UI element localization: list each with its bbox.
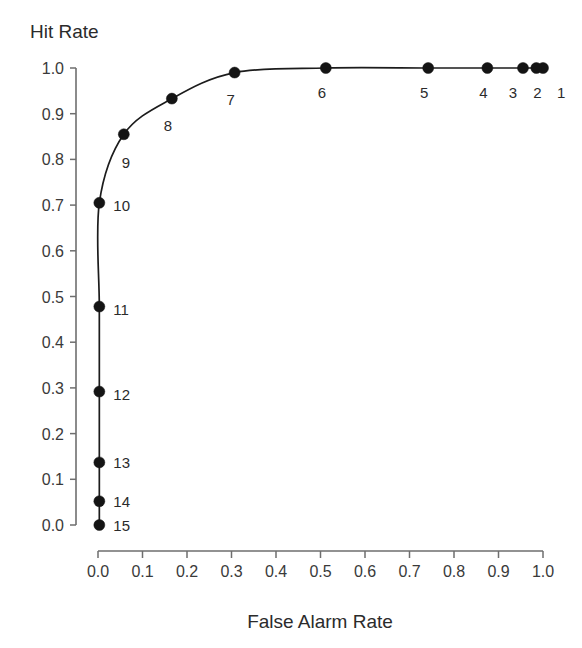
roc-point-8 [166,93,177,104]
roc-point-7 [229,67,240,78]
roc-point-label-13: 13 [113,454,130,471]
chart-canvas: Hit Rate 0.00.10.20.30.40.50.60.70.80.91… [0,0,582,648]
y-tick-label: 0.0 [42,517,64,534]
roc-point-label-10: 10 [113,197,130,214]
x-tick-label: 0.4 [265,563,287,580]
roc-point-label-12: 12 [113,386,130,403]
roc-point-label-3: 3 [509,84,517,101]
roc-point-6 [320,63,331,74]
x-tick-label: 0.0 [87,563,109,580]
roc-point-13 [94,457,105,468]
roc-point-label-11: 11 [113,301,129,318]
roc-point-label-8: 8 [164,117,172,134]
y-tick-label: 1.0 [42,60,64,77]
y-tick-label: 0.4 [42,334,64,351]
y-tick-label: 0.3 [42,380,64,397]
x-tick-label: 0.1 [131,563,153,580]
roc-point-15 [94,520,105,531]
roc-point-9 [118,129,129,140]
x-tick-label: 0.6 [354,563,376,580]
roc-point-label-5: 5 [420,84,428,101]
roc-point-label-9: 9 [122,154,130,171]
y-tick-label: 0.8 [42,151,64,168]
y-tick-label: 0.1 [42,471,64,488]
x-tick-label: 0.5 [309,563,331,580]
y-tick-label: 0.2 [42,426,64,443]
y-tick-label: 0.7 [42,197,64,214]
x-tick-label: 1.0 [532,563,554,580]
x-tick-label: 0.3 [220,563,242,580]
y-tick-label: 0.9 [42,106,64,123]
roc-point-2 [531,63,542,74]
roc-point-11 [94,301,105,312]
y-axis-title: Hit Rate [30,21,99,42]
roc-point-10 [94,197,105,208]
roc-point-14 [94,496,105,507]
roc-point-4 [482,63,493,74]
roc-point-12 [94,386,105,397]
roc-point-5 [423,63,434,74]
x-tick-label: 0.2 [176,563,198,580]
y-tick-label: 0.5 [42,289,64,306]
x-tick-label: 0.8 [443,563,465,580]
roc-chart-figure: Hit Rate 0.00.10.20.30.40.50.60.70.80.91… [0,0,582,648]
x-axis-title: False Alarm Rate [247,611,393,632]
roc-point-label-15: 15 [113,517,130,534]
roc-point-label-2: 2 [533,84,541,101]
y-tick-label: 0.6 [42,243,64,260]
roc-point-label-7: 7 [226,91,234,108]
x-tick-label: 0.9 [487,563,509,580]
roc-point-label-14: 14 [113,493,130,510]
roc-point-label-4: 4 [479,84,487,101]
roc-point-label-1: 1 [557,84,565,101]
roc-point-label-6: 6 [318,84,326,101]
roc-point-3 [517,63,528,74]
x-tick-label: 0.7 [398,563,420,580]
